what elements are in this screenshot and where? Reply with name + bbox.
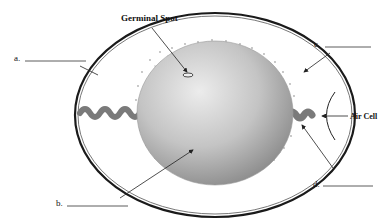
c-leader <box>304 53 330 72</box>
label-b: b. <box>56 198 63 208</box>
label-c: c. <box>314 39 320 49</box>
egg-diagram-svg: Germinal Spot a. b. c. d. Air Cell <box>0 0 385 223</box>
germinal-spot <box>183 73 193 77</box>
label-d: d. <box>313 179 320 189</box>
yolk <box>137 41 293 185</box>
germinal-spot-label: Germinal Spot <box>121 13 178 23</box>
egg-diagram: Germinal Spot a. b. c. d. Air Cell <box>0 0 385 223</box>
label-a: a. <box>14 53 20 63</box>
air-cell-label: Air Cell <box>350 112 378 121</box>
d-leader <box>302 125 333 168</box>
